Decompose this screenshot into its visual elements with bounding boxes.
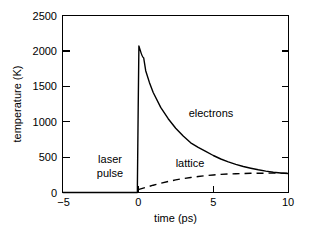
x-tick-label-5: 5 [210, 196, 216, 208]
temperature-vs-time-chart: 2500 2000 1500 1000 500 0 −5 0 5 10 time… [0, 0, 312, 232]
figure-container: 2500 2000 1500 1000 500 0 −5 0 5 10 time… [0, 0, 312, 232]
x-axis-ticks [138, 186, 213, 193]
y-tick-label-0: 0 [51, 187, 57, 199]
x-tick-label-0: 0 [135, 196, 141, 208]
laser-pulse-label-line2: pulse [97, 167, 123, 179]
x-axis-title: time (ps) [154, 212, 197, 224]
electrons-label: electrons [189, 107, 234, 119]
y-axis-ticks-left [63, 16, 70, 193]
y-tick-label-2000: 2000 [33, 45, 57, 57]
y-axis-title: temperature (K) [11, 65, 23, 142]
lattice-label: lattice [176, 157, 205, 169]
y-tick-labels: 2500 2000 1500 1000 500 0 [33, 10, 57, 199]
y-tick-label-1500: 1500 [33, 80, 57, 92]
x-tick-labels: −5 0 5 10 [57, 196, 294, 208]
y-axis-ticks-right [282, 51, 289, 157]
y-tick-label-500: 500 [39, 151, 57, 163]
y-tick-label-2500: 2500 [33, 10, 57, 22]
y-tick-label-1000: 1000 [33, 116, 57, 128]
laser-pulse-label-line1: laser [98, 153, 122, 165]
annotation-laser-pulse: laser pulse [97, 153, 123, 179]
x-tick-label-neg5: −5 [57, 196, 70, 208]
x-tick-label-10: 10 [282, 196, 294, 208]
